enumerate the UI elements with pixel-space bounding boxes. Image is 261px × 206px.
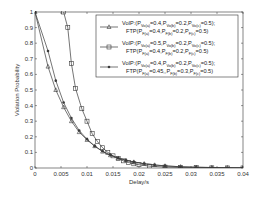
star-marker: [62, 101, 65, 104]
x-tick-label: 0.03: [185, 171, 197, 177]
y-tick-label: 0.5: [25, 87, 34, 93]
x-tick-label: 0.025: [157, 171, 173, 177]
star-marker: [108, 66, 111, 69]
y-tick-label: 0.3: [25, 118, 34, 124]
star-marker: [86, 138, 89, 141]
x-tick-label: 0.035: [209, 171, 225, 177]
y-tick-label: 0.6: [25, 71, 34, 77]
x-tick-label: 0: [33, 171, 37, 177]
y-tick-label: 1: [30, 9, 34, 15]
y-tick-label: 0.2: [25, 134, 34, 140]
x-tick-label: 0.04: [237, 171, 249, 177]
star-marker: [153, 164, 156, 167]
x-axis-label: Delay/s: [129, 179, 149, 185]
star-marker: [133, 161, 136, 164]
star-marker: [78, 129, 81, 132]
star-marker: [109, 154, 112, 157]
star-marker: [226, 166, 229, 169]
y-tick-label: 0.1: [25, 149, 34, 155]
star-marker: [211, 166, 214, 169]
y-axis-label: Violation Probability: [14, 64, 20, 117]
star-marker: [55, 79, 58, 82]
chart: 00.0050.010.0150.020.0250.030.0350.0400.…: [0, 0, 261, 206]
star-marker: [47, 50, 50, 53]
star-marker: [179, 165, 182, 168]
star-marker: [143, 162, 146, 165]
y-tick-label: 0.8: [25, 40, 34, 46]
star-marker: [94, 145, 97, 148]
star-marker: [125, 159, 128, 162]
x-tick-label: 0.005: [53, 171, 69, 177]
star-marker: [117, 157, 120, 160]
x-tick-label: 0.02: [133, 171, 145, 177]
y-tick-label: 0.7: [25, 56, 34, 62]
y-tick-label: 0.9: [25, 25, 34, 31]
legend: VoIP:(PVo(a)=0.4,PVo(b)=0.2,PVo(c)=0.5);…: [96, 15, 238, 77]
x-tick-label: 0.015: [105, 171, 121, 177]
x-tick-label: 0.01: [81, 171, 93, 177]
y-tick-label: 0.4: [25, 103, 34, 109]
star-marker: [70, 117, 73, 120]
star-marker: [101, 150, 104, 153]
